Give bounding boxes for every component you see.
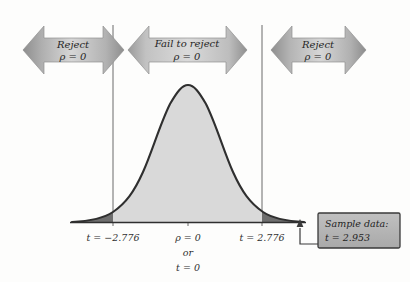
label-center-primary: ρ = 0	[174, 232, 201, 243]
label-center-secondary: t = 0	[176, 262, 200, 273]
double-arrow-shape	[23, 26, 124, 74]
t-distribution-curve	[72, 85, 304, 222]
reject-left-line1: Reject	[56, 39, 90, 50]
fail-to-reject-line2: ρ = 0	[173, 51, 202, 62]
callout-line1: Sample data:	[325, 218, 388, 229]
statistics-figure: Reject ρ = 0 Fail to reject ρ = 0 Reject…	[0, 0, 410, 282]
fail-to-reject-line1: Fail to reject	[154, 38, 220, 49]
decision-band-fail-to-reject: Fail to reject ρ = 0	[128, 26, 247, 74]
label-right-critical: t = 2.776	[239, 232, 284, 243]
double-arrow-shape	[128, 26, 247, 74]
decision-band-reject-left: Reject ρ = 0	[23, 26, 124, 74]
reject-left-line2: ρ = 0	[59, 51, 88, 62]
decision-band-reject-right: Reject ρ = 0	[271, 26, 366, 74]
figure-container: Reject ρ = 0 Fail to reject ρ = 0 Reject…	[0, 0, 410, 282]
callout-leader-line	[300, 228, 318, 244]
label-left-critical: t = −2.776	[87, 232, 140, 243]
reject-right-line1: Reject	[301, 39, 335, 50]
double-arrow-shape	[271, 26, 366, 74]
reject-right-line2: ρ = 0	[304, 51, 333, 62]
callout-line2: t = 2.953	[325, 232, 370, 243]
label-center-connector: or	[183, 247, 195, 258]
fail-to-reject-area	[72, 85, 304, 222]
sample-data-callout: Sample data: t = 2.953	[297, 213, 400, 248]
